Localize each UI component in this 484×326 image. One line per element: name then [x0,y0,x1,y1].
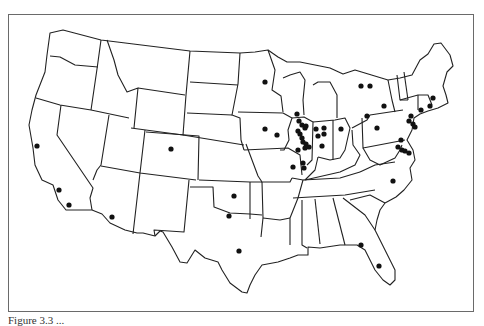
marker-dot [321,131,326,136]
marker-dot [313,126,318,131]
marker-dot [358,242,363,247]
marker-dot [109,214,114,219]
marker-dot [303,123,308,128]
marker-dot [376,263,381,268]
marker-dot [274,132,279,137]
marker-dot [315,133,320,138]
marker-dot [408,113,413,118]
marker-dot [412,124,417,129]
marker-dot [390,178,395,183]
marker-dot [338,126,343,131]
marker-dot [398,137,403,142]
marker-dot [319,143,324,148]
marker-dot [364,113,369,118]
marker-dot [381,103,386,108]
marker-dot [427,103,432,108]
marker-dot [300,160,305,165]
marker-dot [418,107,423,112]
marker-dot [168,146,173,151]
marker-dot [262,79,267,84]
marker-dot [406,150,411,155]
marker-dot [294,111,299,116]
marker-dot [321,125,326,130]
marker-dot [226,213,231,218]
figure-caption: Figure 3.3 ... [8,314,64,326]
marker-dot [295,147,300,152]
location-markers [34,79,435,268]
marker-dot [430,95,435,100]
state-outlines [29,30,453,293]
marker-dot [358,83,363,88]
marker-dot [66,202,71,207]
marker-dot [236,248,241,253]
marker-dot [262,126,267,131]
marker-dot [301,165,306,170]
marker-dot [290,164,295,169]
marker-dot [302,145,307,150]
marker-dot [34,143,39,148]
marker-dot [374,125,379,130]
marker-dot [231,193,236,198]
marker-dot [367,83,372,88]
marker-dot [56,187,61,192]
